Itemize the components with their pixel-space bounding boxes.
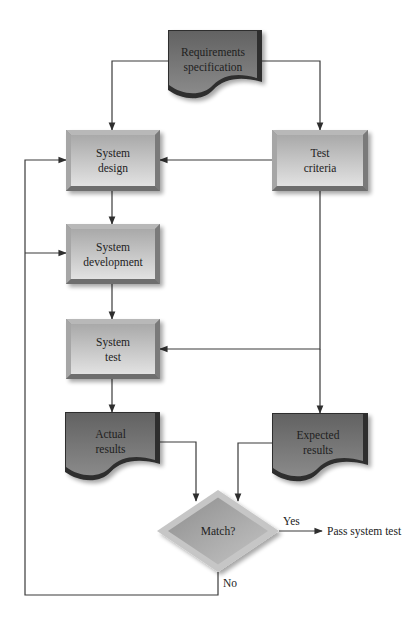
- no-label: No: [223, 577, 237, 589]
- node-expected-results[interactable]: Expectedresults: [272, 413, 368, 481]
- node-match[interactable]: Match?: [157, 490, 279, 572]
- edge-actual-to-match: [160, 442, 196, 501]
- node-label: test: [105, 351, 122, 363]
- node-label: Actual: [95, 428, 126, 440]
- node-actual-results[interactable]: Actualresults: [65, 412, 160, 480]
- node-label: results: [303, 444, 334, 456]
- node-label: specification: [184, 61, 243, 74]
- flowchart-canvas: RequirementsspecificationSystemdesignTes…: [0, 0, 420, 630]
- edge-req-to-criteria: [262, 61, 320, 130]
- node-system-test[interactable]: Systemtest: [66, 319, 160, 379]
- node-label: Match?: [201, 525, 235, 537]
- node-label: System: [96, 336, 130, 349]
- pass-label: Pass system test: [327, 525, 402, 538]
- node-label: results: [95, 443, 126, 455]
- node-label: Test: [311, 147, 331, 159]
- node-label: System: [96, 241, 130, 254]
- edge-req-to-design: [112, 61, 168, 130]
- node-label: Requirements: [181, 46, 245, 59]
- node-label: System: [96, 147, 130, 160]
- node-requirements[interactable]: Requirementsspecification: [168, 30, 262, 98]
- edge-expected-to-match: [238, 443, 272, 501]
- node-label: criteria: [304, 162, 337, 174]
- yes-label: Yes: [283, 515, 300, 527]
- node-system-design[interactable]: Systemdesign: [66, 130, 160, 191]
- node-label: design: [98, 162, 128, 175]
- node-label: development: [83, 256, 143, 269]
- node-label: Expected: [297, 429, 340, 442]
- edge-criteria-to-test: [160, 191, 320, 349]
- node-system-development[interactable]: Systemdevelopment: [66, 224, 160, 284]
- node-test-criteria[interactable]: Testcriteria: [272, 130, 368, 191]
- nodes-layer: RequirementsspecificationSystemdesignTes…: [65, 30, 368, 572]
